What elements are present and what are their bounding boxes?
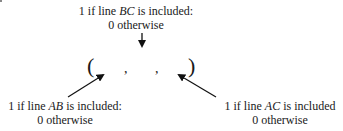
left-label: 1 if line AB is included: 0 otherwise [2, 99, 128, 127]
right-label: 1 if line AC is included 0 otherwise [218, 99, 342, 127]
var-ab: AB [48, 99, 63, 113]
right-label-line2: 0 otherwise [218, 113, 342, 127]
arrow-right-icon [179, 75, 216, 97]
left-label-line1: 1 if line AB is included: [2, 99, 128, 113]
left-label-line2: 0 otherwise [2, 113, 128, 127]
var-ac: AC [265, 99, 280, 113]
arrow-left-icon [68, 75, 103, 97]
right-label-line1: 1 if line AC is included [218, 99, 342, 113]
